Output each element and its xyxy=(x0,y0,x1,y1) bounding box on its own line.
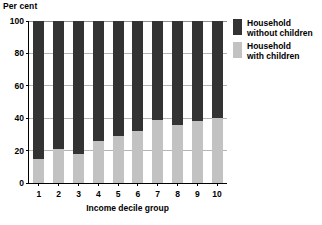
x-tick-label: 8 xyxy=(175,189,180,199)
x-tick-label: 6 xyxy=(136,189,141,199)
stacked-bar-chart: Per cent 02040608010012345678910 Income … xyxy=(0,0,322,225)
y-tick-mark xyxy=(26,118,29,119)
y-axis-label: Per cent xyxy=(3,1,37,11)
legend-label: Household without children xyxy=(247,19,313,38)
bar-segment-without-children xyxy=(132,21,143,131)
y-tick-mark xyxy=(26,21,29,22)
legend-entry: Household with children xyxy=(233,42,321,61)
bar-stack xyxy=(192,21,203,183)
bar-stack xyxy=(93,21,104,183)
bar-segment-with-children xyxy=(33,159,44,183)
bar-segment-without-children xyxy=(73,21,84,154)
legend-label: Household with children xyxy=(247,42,299,61)
bar-stack xyxy=(172,21,183,183)
bar-segment-without-children xyxy=(93,21,104,141)
bar-segment-without-children xyxy=(192,21,203,121)
bar-segment-without-children xyxy=(33,21,44,159)
bar-stack xyxy=(212,21,223,183)
y-tick-label: 20 xyxy=(15,146,24,156)
x-tick-label: 2 xyxy=(56,189,61,199)
x-tick-mark xyxy=(137,183,138,186)
x-tick-mark xyxy=(98,183,99,186)
y-tick-label: 80 xyxy=(15,48,24,58)
x-tick-mark xyxy=(217,183,218,186)
plot-area: 02040608010012345678910 xyxy=(28,21,227,184)
x-tick-label: 10 xyxy=(212,189,221,199)
x-tick-label: 1 xyxy=(37,189,42,199)
bar-segment-with-children xyxy=(93,141,104,183)
y-tick-label: 60 xyxy=(15,81,24,91)
y-tick-label: 100 xyxy=(10,16,24,26)
bar-segment-with-children xyxy=(212,118,223,183)
x-axis-label: Income decile group xyxy=(28,203,227,213)
x-tick-label: 3 xyxy=(76,189,81,199)
x-tick-mark xyxy=(177,183,178,186)
bar-segment-without-children xyxy=(212,21,223,118)
x-tick-mark xyxy=(118,183,119,186)
x-tick-mark xyxy=(38,183,39,186)
x-tick-label: 5 xyxy=(116,189,121,199)
y-tick-mark xyxy=(26,183,29,184)
y-tick-mark xyxy=(26,85,29,86)
bar-stack xyxy=(113,21,124,183)
bar-segment-without-children xyxy=(53,21,64,149)
chart-legend: Household without childrenHousehold with… xyxy=(233,19,321,65)
bar-stack xyxy=(33,21,44,183)
bar-segment-with-children xyxy=(152,120,163,183)
bar-segment-with-children xyxy=(132,131,143,183)
y-tick-mark xyxy=(26,53,29,54)
x-tick-mark xyxy=(157,183,158,186)
x-tick-mark xyxy=(197,183,198,186)
x-tick-label: 4 xyxy=(96,189,101,199)
y-tick-label: 0 xyxy=(19,178,24,188)
x-tick-label: 7 xyxy=(155,189,160,199)
y-tick-label: 40 xyxy=(15,113,24,123)
y-tick-mark xyxy=(26,150,29,151)
bar-stack xyxy=(73,21,84,183)
x-tick-mark xyxy=(58,183,59,186)
bar-stack xyxy=(53,21,64,183)
legend-swatch xyxy=(233,19,242,35)
bar-segment-without-children xyxy=(152,21,163,120)
bar-segment-without-children xyxy=(113,21,124,136)
bar-segment-without-children xyxy=(172,21,183,125)
bar-segment-with-children xyxy=(53,149,64,183)
legend-entry: Household without children xyxy=(233,19,321,38)
legend-swatch xyxy=(233,42,242,58)
bar-segment-with-children xyxy=(113,136,124,183)
bar-stack xyxy=(132,21,143,183)
bar-segment-with-children xyxy=(172,125,183,183)
bar-segment-with-children xyxy=(192,121,203,183)
x-tick-mark xyxy=(78,183,79,186)
bar-stack xyxy=(152,21,163,183)
bar-segment-with-children xyxy=(73,154,84,183)
x-tick-label: 9 xyxy=(195,189,200,199)
